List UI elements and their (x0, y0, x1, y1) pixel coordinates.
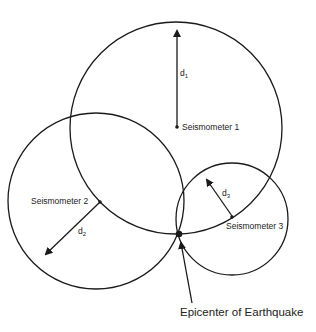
seismometer-1-dot (175, 125, 179, 129)
seismometer-3-label: Seismometer 3 (226, 221, 283, 231)
seismometer-3-range-circle (176, 163, 288, 275)
seismometer-3-group: Seismometer 3 d3 (176, 163, 288, 275)
d2-label: d2 (78, 226, 87, 237)
seismometer-1-label: Seismometer 1 (182, 122, 239, 132)
epicenter-diagram: Seismometer 1 d1 Seismometer 2 d2 Seismo… (0, 0, 316, 332)
seismometer-3-dot (230, 215, 234, 219)
d2-arrow (46, 203, 99, 254)
d3-label: d3 (222, 188, 231, 199)
epicenter-dot (176, 231, 183, 238)
seismometer-1-group: Seismometer 1 d1 (70, 22, 282, 234)
epicenter-label: Epicenter of Earthquake (180, 306, 303, 318)
seismometer-2-group: Seismometer 2 d2 (8, 113, 184, 289)
seismometer-2-label: Seismometer 2 (31, 196, 88, 206)
d1-label: d1 (180, 68, 189, 79)
seismometer-2-dot (98, 200, 102, 204)
